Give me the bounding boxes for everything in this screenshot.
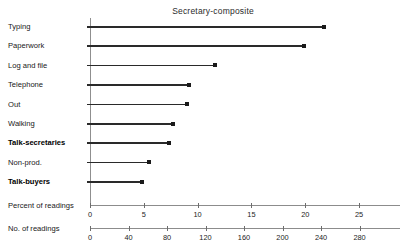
axis-tick-label: 10 <box>194 210 202 219</box>
axis-tick <box>198 203 199 208</box>
axis-tick-label: 40 <box>124 233 132 242</box>
row-label: Paperwork <box>8 41 86 51</box>
axis-tick <box>244 226 245 231</box>
readings-axis: 04080120160200240280 <box>90 228 400 244</box>
axis-tick <box>144 203 145 208</box>
row-label: Out <box>8 100 86 110</box>
axis-tick-label: 25 <box>355 210 363 219</box>
axis-tick-label: 0 <box>88 210 92 219</box>
row-label: Typing <box>8 22 86 32</box>
percent-axis-caption: Percent of readings <box>8 201 74 210</box>
bar-stem <box>90 26 324 28</box>
axis-tick-label: 15 <box>247 210 255 219</box>
chart-row: Non-prod. <box>0 158 408 178</box>
chart-row: Talk-secretaries <box>0 138 408 158</box>
axis-tick-label: 240 <box>315 233 327 242</box>
bar-stem <box>90 45 304 47</box>
row-label: Log and file <box>8 61 86 71</box>
axis-tick <box>359 203 360 208</box>
axis-tick <box>360 226 361 231</box>
bar-stem <box>90 65 215 67</box>
axis-tick-label: 80 <box>163 233 171 242</box>
bar-stem <box>90 104 187 106</box>
bar-endpoint-marker <box>185 102 189 106</box>
axis-tick-label: 200 <box>276 233 288 242</box>
bar-endpoint-marker <box>187 83 191 87</box>
bar-stem <box>90 181 142 183</box>
axis-tick <box>129 226 130 231</box>
axis-tick-label: 160 <box>238 233 250 242</box>
axis-tick-label: 5 <box>142 210 146 219</box>
axis-tick <box>251 203 252 208</box>
row-label: Talk-buyers <box>8 177 86 187</box>
bar-endpoint-marker <box>167 141 171 145</box>
axis-tick <box>321 226 322 231</box>
row-label: Talk-secretaries <box>8 138 86 148</box>
bar-endpoint-marker <box>213 63 217 67</box>
axis-tick <box>283 226 284 231</box>
chart-title: Secretary-composite <box>148 6 278 16</box>
bar-endpoint-marker <box>147 160 151 164</box>
axis-tick-label: 280 <box>353 233 365 242</box>
bar-endpoint-marker <box>171 122 175 126</box>
bar-stem <box>90 142 169 144</box>
readings-axis-caption: No. of readings <box>8 224 60 233</box>
bar-endpoint-marker <box>302 44 306 48</box>
chart-row: Talk-buyers <box>0 177 408 197</box>
percent-axis-line <box>90 205 400 206</box>
chart-row: Walking <box>0 119 408 139</box>
row-label: Non-prod. <box>8 158 86 168</box>
row-label: Walking <box>8 119 86 129</box>
chart-row: Telephone <box>0 80 408 100</box>
chart-row: Typing <box>0 22 408 42</box>
axis-tick <box>206 226 207 231</box>
axis-tick <box>90 226 91 231</box>
bar-stem <box>90 84 189 86</box>
axis-tick <box>167 226 168 231</box>
bar-stem <box>90 162 149 164</box>
row-label: Telephone <box>8 80 86 90</box>
bar-endpoint-marker <box>322 25 326 29</box>
chart-root: Secretary-composite TypingPaperworkLog a… <box>0 0 408 244</box>
bar-stem <box>90 123 173 125</box>
bar-endpoint-marker <box>140 180 144 184</box>
chart-row: Paperwork <box>0 41 408 61</box>
axis-tick-label: 120 <box>199 233 211 242</box>
axis-tick-label: 0 <box>88 233 92 242</box>
axis-tick <box>90 203 91 208</box>
chart-row: Out <box>0 100 408 120</box>
axis-tick <box>305 203 306 208</box>
chart-row: Log and file <box>0 61 408 81</box>
axis-tick-label: 20 <box>301 210 309 219</box>
